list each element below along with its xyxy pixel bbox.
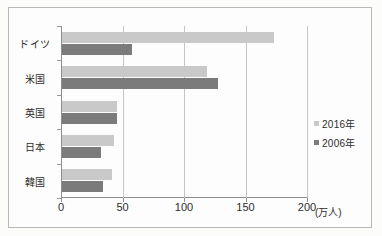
bar-日本-2016年 [62, 135, 114, 146]
bar-米国-2006年 [62, 78, 218, 89]
bar-韓国-2016年 [62, 169, 112, 180]
bar-英国-2016年 [62, 101, 117, 112]
x-tick-label-200: 200 [298, 201, 316, 213]
legend-label-1: 2006年 [322, 135, 356, 150]
x-tick-label-50: 50 [116, 201, 128, 213]
category-label-0: ドイツ [13, 36, 57, 51]
bar-group-2 [62, 101, 307, 124]
legend-label-0: 2016年 [322, 116, 356, 131]
bar-group-4 [62, 169, 307, 192]
bar-日本-2006年 [62, 147, 101, 158]
x-tick-label-100: 100 [175, 201, 193, 213]
legend-item-2016年[interactable]: 2016年 [314, 116, 356, 131]
bar-ドイツ-2016年 [62, 32, 274, 43]
plot-area [61, 26, 307, 198]
x-tick-label-150: 150 [236, 201, 254, 213]
category-label-3: 日本 [13, 139, 57, 154]
y-tick-0 [57, 26, 61, 27]
legend-item-2006年[interactable]: 2006年 [314, 135, 356, 150]
category-label-4: 韓国 [13, 174, 57, 189]
x-axis-unit-label: (万人) [315, 204, 342, 219]
category-label-1: 米国 [13, 71, 57, 86]
bar-英国-2006年 [62, 113, 117, 124]
x-tick-label-0: 0 [58, 201, 64, 213]
bar-group-3 [62, 135, 307, 158]
bar-group-1 [62, 66, 307, 89]
y-tick-1 [57, 60, 61, 61]
y-tick-2 [57, 95, 61, 96]
gridline-200 [307, 26, 308, 198]
page-background: ドイツ米国英国日本韓国 050100150200 (万人) 2016年2006年 [0, 0, 382, 236]
chart-frame: ドイツ米国英国日本韓国 050100150200 (万人) 2016年2006年 [8, 7, 372, 228]
y-tick-4 [57, 164, 61, 165]
y-tick-3 [57, 129, 61, 130]
chart-legend: 2016年2006年 [314, 116, 356, 154]
bar-韓国-2006年 [62, 181, 103, 192]
bar-米国-2016年 [62, 66, 207, 77]
legend-swatch-icon-1 [314, 140, 319, 145]
category-axis-labels: ドイツ米国英国日本韓国 [11, 26, 57, 198]
category-label-2: 英国 [13, 105, 57, 120]
bar-group-0 [62, 32, 307, 55]
legend-swatch-icon-0 [314, 121, 319, 126]
bar-ドイツ-2006年 [62, 44, 132, 55]
